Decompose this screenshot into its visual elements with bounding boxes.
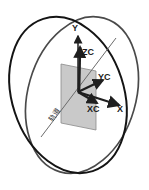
diagram-canvas: Y ZC YC X XC 轨道 — [0, 0, 149, 190]
axis-label-xc: XC — [87, 104, 100, 114]
axis-zc-arrow — [79, 47, 80, 92]
axis-label-y: Y — [72, 23, 78, 33]
orbital-frame-svg: Y ZC YC X XC 轨道 — [0, 0, 149, 190]
axis-label-zc: ZC — [82, 47, 94, 57]
plane-annotation: 轨道 — [46, 107, 62, 124]
axis-label-yc: YC — [98, 72, 111, 82]
axis-label-x: X — [117, 104, 123, 114]
